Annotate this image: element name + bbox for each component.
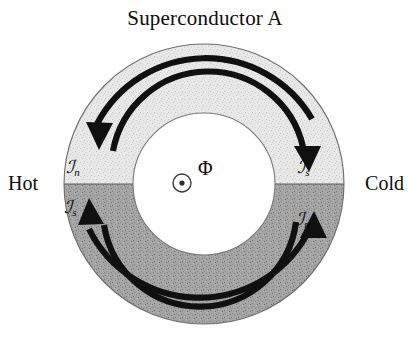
current-label-js-bottom: ℐs bbox=[64, 196, 76, 218]
inner-circle-outline bbox=[133, 113, 275, 255]
current-label-js-top: ℐs bbox=[297, 156, 309, 178]
cold-side-label: Cold bbox=[365, 172, 404, 195]
current-subscript: s bbox=[72, 206, 76, 218]
annulus-body bbox=[60, 40, 350, 330]
current-subscript: n bbox=[304, 218, 310, 230]
script-j-glyph: ℐ bbox=[66, 156, 74, 177]
current-label-jn-top: ℐn bbox=[66, 156, 80, 178]
script-j-glyph: ℐ bbox=[64, 196, 72, 217]
current-subscript: s bbox=[305, 166, 309, 178]
script-j-glyph: ℐ bbox=[296, 208, 304, 229]
current-subscript: n bbox=[74, 166, 80, 178]
flux-out-of-page-icon bbox=[173, 174, 191, 192]
current-label-jn-bottom: ℐn bbox=[296, 208, 310, 230]
flux-label: Φ bbox=[198, 157, 213, 180]
hot-side-label: Hot bbox=[8, 172, 38, 195]
script-j-glyph: ℐ bbox=[297, 156, 305, 177]
superconductor-ring-diagram: Superconductor A bbox=[0, 0, 410, 343]
